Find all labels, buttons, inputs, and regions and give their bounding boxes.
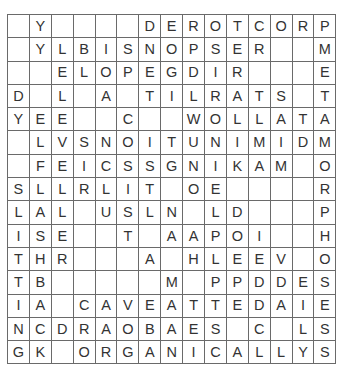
- grid-cell[interactable]: [183, 271, 205, 294]
- grid-cell[interactable]: N: [183, 154, 205, 177]
- grid-cell[interactable]: A: [183, 224, 205, 247]
- grid-cell[interactable]: O: [205, 15, 227, 38]
- grid-cell[interactable]: E: [51, 108, 73, 131]
- grid-cell[interactable]: P: [117, 61, 139, 84]
- grid-cell[interactable]: A: [95, 294, 117, 317]
- grid-cell[interactable]: A: [95, 84, 117, 107]
- grid-cell[interactable]: O: [161, 38, 183, 61]
- grid-cell[interactable]: A: [139, 247, 161, 270]
- grid-cell[interactable]: A: [270, 108, 292, 131]
- grid-cell[interactable]: L: [8, 201, 30, 224]
- grid-cell[interactable]: [8, 154, 30, 177]
- grid-cell[interactable]: M: [161, 271, 183, 294]
- grid-cell[interactable]: O: [205, 108, 227, 131]
- grid-cell[interactable]: A: [161, 317, 183, 340]
- grid-cell[interactable]: [292, 84, 314, 107]
- grid-cell[interactable]: [270, 224, 292, 247]
- grid-cell[interactable]: D: [270, 271, 292, 294]
- grid-cell[interactable]: L: [270, 341, 292, 364]
- grid-cell[interactable]: L: [51, 84, 73, 107]
- grid-cell[interactable]: L: [139, 201, 161, 224]
- grid-cell[interactable]: N: [205, 131, 227, 154]
- grid-cell[interactable]: T: [314, 84, 336, 107]
- grid-cell[interactable]: [292, 38, 314, 61]
- grid-cell[interactable]: L: [51, 178, 73, 201]
- grid-cell[interactable]: [292, 154, 314, 177]
- grid-cell[interactable]: S: [73, 131, 95, 154]
- grid-cell[interactable]: I: [270, 131, 292, 154]
- grid-cell[interactable]: E: [292, 271, 314, 294]
- grid-cell[interactable]: [270, 61, 292, 84]
- grid-cell[interactable]: E: [139, 294, 161, 317]
- grid-cell[interactable]: [8, 15, 30, 38]
- grid-cell[interactable]: [292, 201, 314, 224]
- grid-cell[interactable]: I: [226, 131, 248, 154]
- grid-cell[interactable]: [51, 15, 73, 38]
- grid-cell[interactable]: S: [205, 38, 227, 61]
- grid-cell[interactable]: [73, 108, 95, 131]
- grid-cell[interactable]: V: [117, 294, 139, 317]
- grid-cell[interactable]: I: [205, 154, 227, 177]
- grid-cell[interactable]: E: [314, 61, 336, 84]
- grid-cell[interactable]: H: [29, 247, 51, 270]
- grid-cell[interactable]: L: [29, 178, 51, 201]
- grid-cell[interactable]: S: [205, 317, 227, 340]
- grid-cell[interactable]: H: [183, 247, 205, 270]
- grid-cell[interactable]: M: [248, 131, 270, 154]
- grid-cell[interactable]: D: [292, 131, 314, 154]
- grid-cell[interactable]: [29, 61, 51, 84]
- grid-cell[interactable]: T: [117, 224, 139, 247]
- grid-cell[interactable]: T: [8, 271, 30, 294]
- grid-cell[interactable]: C: [95, 154, 117, 177]
- grid-cell[interactable]: A: [314, 108, 336, 131]
- grid-cell[interactable]: R: [314, 178, 336, 201]
- grid-cell[interactable]: T: [292, 108, 314, 131]
- grid-cell[interactable]: [226, 178, 248, 201]
- grid-cell[interactable]: [270, 38, 292, 61]
- grid-cell[interactable]: F: [29, 154, 51, 177]
- grid-cell[interactable]: [292, 178, 314, 201]
- grid-cell[interactable]: [73, 271, 95, 294]
- grid-cell[interactable]: [161, 108, 183, 131]
- grid-cell[interactable]: G: [161, 154, 183, 177]
- grid-cell[interactable]: A: [95, 317, 117, 340]
- grid-cell[interactable]: [8, 61, 30, 84]
- grid-cell[interactable]: S: [270, 84, 292, 107]
- grid-cell[interactable]: L: [248, 341, 270, 364]
- grid-cell[interactable]: [226, 317, 248, 340]
- grid-cell[interactable]: L: [292, 317, 314, 340]
- grid-cell[interactable]: T: [8, 247, 30, 270]
- grid-cell[interactable]: I: [117, 178, 139, 201]
- grid-cell[interactable]: L: [29, 131, 51, 154]
- grid-cell[interactable]: O: [314, 154, 336, 177]
- grid-cell[interactable]: O: [270, 15, 292, 38]
- grid-cell[interactable]: C: [248, 15, 270, 38]
- grid-cell[interactable]: [73, 247, 95, 270]
- grid-cell[interactable]: E: [226, 247, 248, 270]
- grid-cell[interactable]: L: [51, 201, 73, 224]
- grid-cell[interactable]: [51, 271, 73, 294]
- grid-cell[interactable]: N: [161, 341, 183, 364]
- grid-cell[interactable]: A: [139, 341, 161, 364]
- grid-cell[interactable]: E: [205, 178, 227, 201]
- grid-cell[interactable]: E: [51, 154, 73, 177]
- grid-cell[interactable]: D: [248, 271, 270, 294]
- grid-cell[interactable]: W: [183, 108, 205, 131]
- grid-cell[interactable]: S: [117, 38, 139, 61]
- grid-cell[interactable]: [183, 201, 205, 224]
- grid-cell[interactable]: S: [117, 201, 139, 224]
- grid-cell[interactable]: I: [205, 61, 227, 84]
- grid-cell[interactable]: A: [270, 294, 292, 317]
- grid-cell[interactable]: C: [29, 317, 51, 340]
- grid-cell[interactable]: N: [161, 201, 183, 224]
- grid-cell[interactable]: N: [95, 131, 117, 154]
- grid-cell[interactable]: D: [248, 294, 270, 317]
- grid-cell[interactable]: B: [139, 317, 161, 340]
- grid-cell[interactable]: [95, 15, 117, 38]
- grid-cell[interactable]: P: [183, 38, 205, 61]
- grid-cell[interactable]: G: [161, 61, 183, 84]
- grid-cell[interactable]: P: [314, 15, 336, 38]
- grid-cell[interactable]: D: [51, 317, 73, 340]
- grid-cell[interactable]: H: [314, 224, 336, 247]
- grid-cell[interactable]: E: [51, 61, 73, 84]
